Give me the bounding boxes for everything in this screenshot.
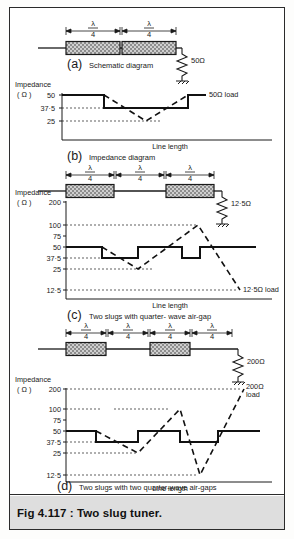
panel-d-tag: (d) [57,479,72,493]
panel-d-caption-row: (d) Two slugs with two quarter-wave air-… [10,477,284,495]
panel-b-tag: (b) [67,149,82,163]
panel-b-axis-title: Impedance [15,80,51,89]
panel-d-axes [63,388,272,482]
slug-2 [122,42,176,55]
panel-c-lambda-label-3: λ 4 [185,163,195,183]
panel-b-ytick-37-5: 37·5 [40,104,55,113]
panel-c-ytick-200: 200 [49,198,61,207]
panel-c-ytick-50: 50 [53,243,61,252]
panel-c-lambda-label-2: λ 4 [135,163,145,183]
panel-b-load-annotation: 50Ω load [209,90,238,99]
lambda-denominator: 4 [88,174,92,183]
panel-c-axes [63,201,272,299]
ground-symbol-c [216,224,229,227]
figure-page: λ 4 λ 4 [0,0,294,539]
lambda-numerator: λ [188,163,192,172]
panel-d-load-annotation-line2: load [246,390,260,399]
load-resistor-c [217,191,227,224]
panel-c-lambda-label-1: λ 4 [85,163,95,183]
panel-d: λ 4 λ 4 [15,321,272,493]
panel-d-lambda-label-4: λ 4 [207,321,217,341]
panel-c-ytick-37-5: 37·5 [46,254,61,263]
panel-b-axes [59,93,272,140]
panel-d-ytick-100: 100 [49,405,61,414]
load-resistor-a [177,48,187,81]
lambda-numerator: λ [88,163,92,172]
panel-a-load-label: 50Ω [191,56,205,65]
panel-d-ytick-50: 50 [53,427,61,436]
lambda-denominator: 4 [147,30,151,39]
two-slug-tuner-diagram: λ 4 λ 4 [10,8,284,495]
panel-d-load-label: 200Ω [247,357,265,366]
slug-1 [66,185,114,198]
lambda-denominator: 4 [84,332,88,341]
panel-d-lambda-label-3: λ 4 [165,321,175,341]
lambda-numerator: λ [138,163,142,172]
panel-d-ytick-25: 25 [53,449,61,458]
figure-drawing-area: λ 4 λ 4 [10,8,284,495]
ground-symbol-d [232,382,245,385]
slug-2 [150,343,190,356]
panel-a-lambda-label-2: λ 4 [144,19,154,39]
lambda-denominator: 4 [210,332,214,341]
panel-a-title: Schematic diagram [89,61,153,70]
lambda-denominator: 4 [168,332,172,341]
slug-1 [66,42,120,55]
panel-c-axis-unit: ( Ω ) [17,198,31,207]
slug-2 [166,185,214,198]
panel-d-ytick-37-5: 37·5 [46,438,61,447]
panel-b-xlabel: Line length [152,142,188,151]
lambda-numerator: λ [210,321,214,330]
ground-symbol-a [176,81,189,84]
panel-b-axis-unit: ( Ω ) [17,90,31,99]
panel-a-tag: (a) [67,57,82,71]
panel-c-load-label: 12·5Ω [231,199,252,208]
slug-1 [66,343,106,356]
panel-c-ytick-75: 75 [53,232,61,241]
lambda-numerator: λ [126,321,130,330]
lambda-denominator: 4 [138,174,142,183]
lambda-numerator: λ [147,19,151,28]
panel-d-lambda-label-2: λ 4 [123,321,133,341]
panel-b-gridlines [62,108,188,121]
panel-b-ytick-25: 25 [47,117,55,126]
figure-caption-text: Fig 4.117 : Two slug tuner. [10,507,162,519]
lambda-numerator: λ [84,321,88,330]
lambda-denominator: 4 [188,174,192,183]
panel-b-ytick-50: 50 [47,91,55,100]
lambda-denominator: 4 [126,332,130,341]
panel-d-ytick-75: 75 [53,416,61,425]
panel-b-plot: Impedance ( Ω ) 50 37·5 25 [15,80,272,163]
panel-d-axis-title: Impedance [15,375,51,384]
load-resistor-d [233,349,243,382]
panel-d-axis-unit: ( Ω ) [17,385,31,394]
panel-d-lambda-label-1: λ 4 [81,321,91,341]
panel-c-ytick-12-5: 12·5 [46,286,61,295]
panel-c-title: Two slugs with quarter- wave air-gap [89,312,211,321]
panel-c-ytick-25: 25 [53,265,61,274]
panel-c-gridlines [66,225,238,290]
panel-b-title: Impedance diagram [89,153,155,162]
lambda-numerator: λ [168,321,172,330]
panel-a-lambda-label-1: λ 4 [88,19,98,39]
panel-c-axis-title: Impedance [15,188,51,197]
panel-c-xlabel: Line length [152,301,188,310]
lambda-numerator: λ [91,19,95,28]
figure-caption-bar: Fig 4.117 : Two slug tuner. [10,496,284,529]
panel-c: λ 4 λ 4 [15,163,279,322]
lambda-denominator: 4 [91,30,95,39]
panel-d-title: Two slugs with two quarter-wave air-gaps [79,483,217,492]
panel-d-solid-curve [66,431,260,442]
panel-d-ytick-200: 200 [49,385,61,394]
panel-c-tag: (c) [67,308,82,322]
panel-c-ytick-100: 100 [49,221,61,230]
panel-c-load-annotation: 12·5Ω load [243,285,279,294]
panel-a-schematic: λ 4 λ 4 [38,19,205,84]
